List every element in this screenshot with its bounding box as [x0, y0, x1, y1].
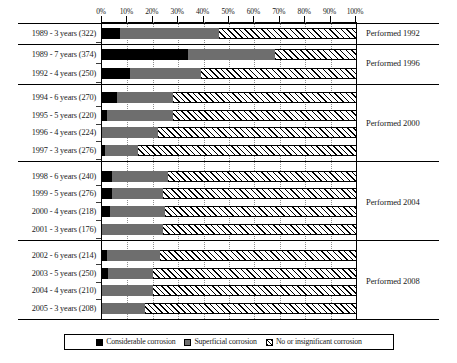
group-separator — [18, 319, 439, 320]
bar-row — [102, 285, 356, 296]
segment-superficial-corrosion — [105, 145, 138, 156]
category-label: 2002 - 6 years (214) — [6, 251, 96, 261]
stacked-bar — [102, 206, 356, 217]
row-tick-stub — [96, 63, 101, 64]
group-annotation-label: Performed 1996 — [366, 58, 456, 69]
bar-row — [102, 92, 356, 103]
row-tick-stub — [96, 185, 101, 186]
segment-no-corrosion — [201, 68, 356, 79]
group-separator — [18, 240, 439, 241]
segment-superficial-corrosion — [117, 92, 173, 103]
segment-no-corrosion — [138, 145, 356, 156]
stacked-bar-chart: 0%10%20%30%40%50%60%70%80%90%100% 1989 -… — [0, 0, 457, 363]
segment-superficial-corrosion — [130, 68, 201, 79]
group-annotation-label: Performed 2004 — [366, 197, 456, 208]
segment-no-corrosion — [163, 224, 356, 235]
category-label: 2004 - 4 years (210) — [6, 286, 96, 296]
stacked-bar — [102, 303, 356, 314]
legend-item: Superficial corrosion — [184, 337, 256, 347]
plot-area — [101, 22, 357, 319]
bar-row — [102, 49, 356, 60]
stacked-bar — [102, 171, 356, 182]
stacked-bar — [102, 28, 356, 39]
segment-considerable-corrosion — [102, 188, 112, 199]
stacked-bar — [102, 110, 356, 121]
row-tick-stub — [96, 106, 101, 107]
row-tick-stub — [96, 82, 101, 83]
bar-row — [102, 127, 356, 138]
bar-row — [102, 224, 356, 235]
group-separator — [18, 84, 439, 85]
bar-row — [102, 268, 356, 279]
segment-superficial-corrosion — [102, 303, 145, 314]
row-tick-stub — [96, 238, 101, 239]
segment-no-corrosion — [168, 171, 356, 182]
category-label: 1997 - 3 years (276) — [6, 146, 96, 156]
segment-no-corrosion — [153, 268, 356, 279]
segment-no-corrosion — [219, 28, 356, 39]
stacked-bar — [102, 49, 356, 60]
stacked-bar — [102, 268, 356, 279]
category-label: 2003 - 5 years (250) — [6, 269, 96, 279]
bar-row — [102, 145, 356, 156]
segment-considerable-corrosion — [102, 49, 188, 60]
bar-row — [102, 68, 356, 79]
legend-label: Considerable corrosion — [106, 337, 175, 347]
category-label: 2005 - 3 years (208) — [6, 304, 96, 314]
legend-item: No or insignificant corrosion — [266, 337, 362, 347]
bar-row — [102, 171, 356, 182]
bar-row — [102, 28, 356, 39]
segment-superficial-corrosion — [102, 285, 153, 296]
stacked-bar — [102, 188, 356, 199]
group-annotation-label: Performed 2000 — [366, 118, 456, 129]
bar-row — [102, 188, 356, 199]
segment-no-corrosion — [173, 110, 356, 121]
legend-swatch-considerable — [96, 339, 103, 346]
group-annotation-label: Performed 2008 — [366, 276, 456, 287]
segment-superficial-corrosion — [112, 188, 163, 199]
segment-no-corrosion — [153, 285, 356, 296]
chart-legend: Considerable corrosionSuperficial corros… — [64, 334, 394, 350]
category-label: 2001 - 3 years (176) — [6, 225, 96, 235]
legend-item: Considerable corrosion — [96, 337, 175, 347]
segment-considerable-corrosion — [102, 68, 130, 79]
segment-superficial-corrosion — [102, 127, 158, 138]
segment-superficial-corrosion — [188, 49, 274, 60]
legend-label: Superficial corrosion — [194, 337, 256, 347]
category-label: 1992 - 4 years (250) — [6, 69, 96, 79]
legend-swatch-superficial — [184, 339, 191, 346]
row-tick-stub — [96, 264, 101, 265]
stacked-bar — [102, 68, 356, 79]
stacked-bar — [102, 250, 356, 261]
row-tick-stub — [96, 282, 101, 283]
segment-considerable-corrosion — [102, 171, 112, 182]
legend-label: No or insignificant corrosion — [276, 337, 362, 347]
segment-no-corrosion — [158, 127, 356, 138]
row-tick-stub — [96, 124, 101, 125]
category-label: 1996 - 4 years (224) — [6, 128, 96, 138]
row-tick-stub — [96, 42, 101, 43]
bar-row — [102, 206, 356, 217]
stacked-bar — [102, 92, 356, 103]
row-tick-stub — [96, 299, 101, 300]
bar-row — [102, 303, 356, 314]
category-label: 1989 - 7 years (374) — [6, 50, 96, 60]
category-label: 1999 - 5 years (276) — [6, 189, 96, 199]
segment-considerable-corrosion — [102, 28, 120, 39]
segment-superficial-corrosion — [107, 250, 160, 261]
row-tick-stub — [96, 202, 101, 203]
bar-row — [102, 250, 356, 261]
segment-superficial-corrosion — [112, 171, 168, 182]
category-label: 2000 - 4 years (218) — [6, 207, 96, 217]
stacked-bar — [102, 145, 356, 156]
segment-superficial-corrosion — [110, 206, 166, 217]
segment-superficial-corrosion — [107, 110, 173, 121]
group-separator — [18, 44, 439, 45]
segment-no-corrosion — [160, 250, 356, 261]
segment-no-corrosion — [163, 188, 356, 199]
segment-superficial-corrosion — [120, 28, 219, 39]
category-label: 1989 - 3 years (322) — [6, 29, 96, 39]
category-label: 1995 - 5 years (220) — [6, 111, 96, 121]
segment-no-corrosion — [145, 303, 356, 314]
segment-no-corrosion — [165, 206, 356, 217]
